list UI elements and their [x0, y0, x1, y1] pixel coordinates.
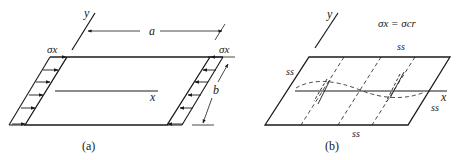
ss-top-label: ss	[397, 41, 405, 52]
ss-right-label: ss	[431, 102, 439, 113]
plate-buckling-diagram: y x a b σx σx (a) y x σx = σcr ss ss	[0, 0, 459, 160]
panel-a	[9, 13, 235, 125]
y-label-a: y	[83, 6, 90, 20]
ss-left-label: ss	[286, 66, 294, 77]
ss-bottom-label: ss	[352, 128, 360, 139]
panel-b-labels: y x σx = σcr ss ss ss ss (b)	[286, 7, 447, 153]
caption-a: (a)	[82, 139, 95, 153]
condition-label: σx = σcr	[378, 17, 417, 29]
x-label-a: x	[149, 90, 156, 104]
panel-a-labels: y x a b σx σx (a)	[47, 6, 229, 153]
caption-b: (b)	[325, 139, 339, 153]
x-label-b: x	[440, 90, 447, 104]
b-label: b	[213, 83, 219, 97]
half-wave-bulges	[314, 72, 404, 104]
dimension-b	[218, 64, 228, 82]
a-label: a	[149, 24, 155, 38]
y-label-b: y	[326, 7, 333, 21]
sigma-right-label: σx	[219, 43, 229, 55]
sigma-left-label: σx	[47, 43, 57, 55]
load-strip-left-outer	[9, 57, 50, 125]
